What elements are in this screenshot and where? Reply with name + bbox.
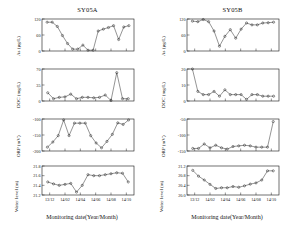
svg-text:-50: -50	[180, 117, 186, 122]
ylabel-doc-sy05a: DOC (mg/L)	[16, 82, 21, 108]
svg-text:20.0: 20.0	[178, 193, 185, 198]
svg-text:14/06: 14/06	[236, 197, 246, 202]
svg-text:21.4: 21.4	[33, 183, 41, 188]
svg-text:10: 10	[181, 83, 185, 88]
panel-as-sy05b: 060120	[173, 16, 281, 54]
svg-text:120: 120	[34, 17, 40, 22]
xaxis-title-sy05a: Monitoring date(Year/Month)	[20, 214, 144, 220]
svg-text:14/04: 14/04	[221, 197, 231, 202]
panel-water-level-sy05b: 20.020.420.821.213/1214/0214/0414/0614/0…	[173, 163, 281, 205]
svg-text:14/10: 14/10	[267, 197, 277, 202]
column-title-sy05a: SY05A	[35, 6, 140, 13]
svg-text:14/10: 14/10	[122, 197, 132, 202]
ylabel-orp-sy05b: ORP (mV)	[161, 135, 166, 157]
svg-text:13/12: 13/12	[190, 197, 200, 202]
figure-root: SY05A SY05B 060120 As (µg/L) 060120 As (…	[0, 0, 285, 230]
ylabel-as-sy05a: As (µg/L)	[16, 36, 21, 56]
svg-text:60: 60	[36, 33, 40, 38]
svg-text:120: 120	[179, 17, 185, 22]
svg-text:0: 0	[183, 49, 185, 54]
svg-text:-100: -100	[33, 117, 41, 122]
svg-text:0: 0	[183, 99, 185, 104]
svg-text:20.4: 20.4	[178, 183, 186, 188]
svg-text:0: 0	[38, 49, 40, 54]
panel-doc-sy05b: 01020	[173, 66, 281, 104]
ylabel-as-sy05b: As (µg/L)	[161, 36, 166, 56]
svg-text:14/02: 14/02	[205, 197, 215, 202]
svg-text:14/08: 14/08	[251, 197, 261, 202]
xaxis-title-sy05b: Monitoring date(Year/Month)	[165, 214, 285, 220]
panel-as-sy05a: 060120	[28, 16, 136, 54]
svg-text:70: 70	[36, 67, 40, 72]
svg-text:21.2: 21.2	[178, 164, 185, 169]
svg-text:-100: -100	[178, 133, 186, 138]
column-title-sy05b: SY05B	[180, 6, 285, 13]
panel-orp-sy05b: -150-100-50	[173, 116, 281, 154]
svg-text:14/06: 14/06	[91, 197, 101, 202]
svg-text:0: 0	[38, 99, 40, 104]
svg-text:20.8: 20.8	[178, 173, 185, 178]
panel-doc-sy05a: 03570	[28, 66, 136, 104]
ylabel-water-level-sy05a: Water level (m)	[14, 181, 19, 212]
svg-text:-150: -150	[33, 133, 41, 138]
svg-text:13/12: 13/12	[45, 197, 55, 202]
svg-text:14/08: 14/08	[106, 197, 116, 202]
svg-text:-200: -200	[33, 149, 41, 154]
ylabel-water-level-sy05b: Water level (m)	[159, 181, 164, 212]
ylabel-doc-sy05b: DOC (mg/L)	[161, 82, 166, 108]
ylabel-orp-sy05a: ORP (mV)	[16, 135, 21, 157]
svg-text:21.8: 21.8	[33, 164, 40, 169]
panel-water-level-sy05a: 21.221.421.621.813/1214/0214/0414/0614/0…	[28, 163, 136, 205]
svg-text:21.2: 21.2	[33, 193, 40, 198]
panel-orp-sy05a: -200-150-100	[28, 116, 136, 154]
svg-text:20: 20	[181, 67, 185, 72]
svg-text:21.6: 21.6	[33, 173, 40, 178]
svg-text:35: 35	[36, 83, 40, 88]
svg-text:14/04: 14/04	[76, 197, 86, 202]
svg-text:14/02: 14/02	[60, 197, 70, 202]
svg-text:-150: -150	[178, 149, 186, 154]
svg-text:60: 60	[181, 33, 185, 38]
